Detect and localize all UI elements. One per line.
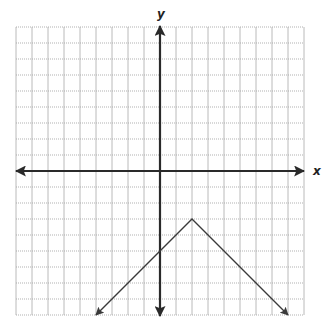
coordinate-plane: x y bbox=[0, 0, 331, 320]
y-axis-label: y bbox=[157, 7, 166, 21]
axes bbox=[16, 26, 304, 316]
x-axis-label: x bbox=[312, 164, 322, 178]
